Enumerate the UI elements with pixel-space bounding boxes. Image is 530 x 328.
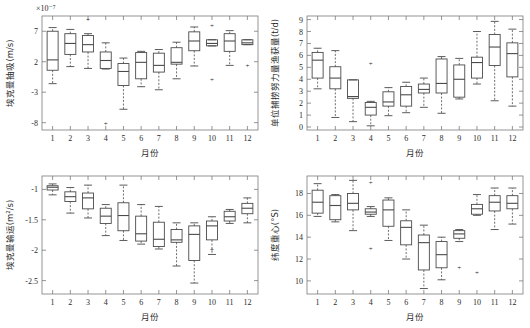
y-tick-label: 2 [34, 58, 38, 67]
box-rect [471, 57, 482, 78]
box-rect [83, 36, 94, 52]
box-group [65, 29, 76, 66]
box-rect [171, 48, 182, 64]
x-tick-label: 1 [51, 134, 55, 143]
x-tick-label: 10 [473, 298, 481, 307]
outlier-marker: + [369, 245, 373, 253]
y-tick-label: 18 [295, 189, 303, 198]
panel-ekman-transport: -1-1.5-2-2.5123456789101112月份埃克曼输运(m²/s)… [0, 164, 265, 328]
x-axis-label: 月份 [141, 148, 159, 158]
box-group [348, 80, 359, 122]
box-group [436, 57, 447, 114]
x-tick-label: 3 [351, 134, 355, 143]
x-tick-label: 5 [386, 298, 390, 307]
box-group [383, 88, 394, 116]
y-tick-label: 0 [299, 123, 303, 132]
plot-frame [307, 16, 523, 130]
box-group [118, 185, 129, 240]
box-rect [401, 221, 412, 245]
box-group [83, 185, 94, 218]
box-group [242, 198, 253, 223]
x-tick-label: 6 [139, 298, 143, 307]
box-rect [507, 196, 518, 209]
box-group [507, 188, 518, 224]
x-tick-label: 11 [491, 134, 499, 143]
boxplot-figure: ×10⁻⁷72-3-8123456789101112月份埃克曼抽吸(m/s)++… [0, 0, 530, 328]
y-tick-label: 14 [295, 233, 303, 242]
x-tick-label: 4 [104, 298, 108, 307]
x-tick-label: 5 [386, 134, 390, 143]
box-group: + [365, 60, 376, 126]
box-group [189, 27, 200, 66]
outlier-marker: + [86, 16, 90, 24]
box-rect [348, 193, 359, 209]
box-rect [418, 84, 429, 93]
x-tick-label: 3 [86, 298, 90, 307]
box-rect [365, 103, 376, 116]
box-group [136, 51, 147, 86]
y-tick-label: 7 [34, 27, 38, 36]
box-rect [242, 40, 253, 45]
box-group [454, 58, 465, 99]
outlier-marker: + [210, 22, 214, 30]
box-rect [401, 86, 412, 106]
box-rect [65, 34, 76, 55]
box-rect [224, 34, 235, 52]
x-tick-label: 10 [208, 298, 216, 307]
x-tick-label: 11 [226, 134, 234, 143]
y-tick-label: -3 [31, 88, 38, 97]
box-rect [489, 196, 500, 211]
y-tick-label: 1 [299, 111, 303, 120]
x-tick-label: 10 [208, 134, 216, 143]
box-group [47, 28, 58, 84]
x-axis-label: 月份 [141, 312, 159, 322]
outlier-marker: + [457, 264, 461, 272]
panel-svg-3: 1012141618123456789101112月份纬度重心(°S)++++ [265, 164, 530, 328]
box-rect [348, 80, 359, 99]
x-axis-label: 月份 [406, 312, 424, 322]
box-group [418, 78, 429, 107]
x-tick-label: 4 [369, 298, 373, 307]
box-rect [47, 31, 58, 70]
box-rect [136, 53, 147, 79]
box-group [330, 195, 341, 222]
y-tick-label: 12 [295, 255, 303, 264]
box-rect [189, 226, 200, 261]
y-tick-label: 2 [299, 99, 303, 108]
y-tick-label: 3 [299, 87, 303, 96]
box-group [312, 184, 323, 217]
box-group [330, 51, 341, 118]
box-rect [312, 52, 323, 78]
x-tick-label: 9 [192, 134, 196, 143]
y-axis-label: 埃克曼输运(m²/s) [5, 200, 15, 271]
y-tick-label: 5 [299, 63, 303, 72]
x-tick-label: 8 [440, 298, 444, 307]
y-tick-label: -1.5 [25, 216, 38, 225]
x-tick-label: 12 [243, 134, 251, 143]
box-group [348, 180, 359, 230]
box-group [153, 206, 164, 249]
outlier-marker: + [369, 60, 373, 68]
y-tick-label: 8 [299, 28, 303, 37]
outlier-marker: + [369, 179, 373, 187]
box-rect [383, 92, 394, 106]
box-group: + [471, 195, 482, 277]
box-group: ++ [206, 22, 217, 84]
y-axis-label: 埃克曼抽吸(m/s) [5, 39, 15, 106]
x-tick-label: 7 [157, 298, 161, 307]
y-tick-label: 16 [295, 211, 303, 220]
box-group [136, 205, 147, 245]
box-rect [118, 203, 129, 231]
y-tick-label: 9 [299, 16, 303, 25]
box-group [489, 188, 500, 230]
box-group [418, 225, 429, 288]
x-tick-label: 8 [440, 134, 444, 143]
box-group: + [83, 16, 94, 69]
outlier-marker: + [245, 62, 249, 70]
panel-svg-0: ×10⁻⁷72-3-8123456789101112月份埃克曼抽吸(m/s)++… [0, 0, 265, 164]
x-tick-label: 6 [404, 134, 408, 143]
box-rect [153, 222, 164, 246]
y-tick-label: 4 [299, 75, 303, 84]
y-tick-label: 10 [295, 277, 303, 286]
box-group: ++ [365, 179, 376, 253]
